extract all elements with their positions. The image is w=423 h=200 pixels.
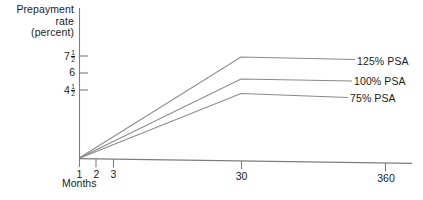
series-label-75-psa: 75% PSA bbox=[350, 92, 396, 104]
y-axis-title-line-1: Prepayment bbox=[4, 4, 74, 16]
series-label-100-psa: 100% PSA bbox=[354, 75, 406, 87]
y-tick-whole-6: 6 bbox=[69, 66, 75, 78]
series-line-125-psa bbox=[80, 57, 355, 158]
y-tick-label-6: 6 bbox=[22, 67, 75, 78]
series-label-125-psa: 125% PSA bbox=[357, 55, 409, 67]
x-tick-label-360: 360 bbox=[372, 172, 400, 184]
x-tick-label-3: 3 bbox=[102, 168, 125, 180]
series-line-75-psa bbox=[80, 94, 348, 159]
y-tick-label-4-and-half: 412 bbox=[22, 84, 75, 97]
y-tick-label-7-and-half: 712 bbox=[22, 50, 75, 63]
x-axis-title: Months bbox=[62, 177, 96, 189]
x-axis-line bbox=[80, 159, 413, 164]
prepayment-psa-chart: Prepayment rate (percent) 712 6 412 1 2 … bbox=[0, 0, 423, 200]
fraction-one-half-icon: 12 bbox=[71, 84, 75, 97]
y-axis-title-line-3: (percent) bbox=[4, 27, 74, 39]
y-tick-whole-4: 4 bbox=[64, 84, 70, 96]
y-tick-whole-7: 7 bbox=[64, 50, 70, 62]
x-tick-label-30: 30 bbox=[230, 170, 253, 182]
series-line-100-psa bbox=[80, 79, 352, 158]
fraction-one-half-icon: 12 bbox=[71, 50, 75, 63]
y-axis-title: Prepayment rate (percent) bbox=[4, 4, 74, 39]
